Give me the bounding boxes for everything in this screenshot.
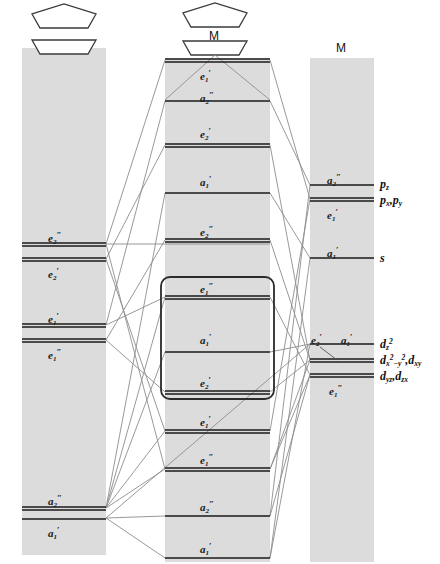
level-label-left-a2dprime: a2″ [48,491,62,509]
level-label-center-e1prime-2: e1′ [200,412,211,430]
level-label-left-e1prime: e1′ [48,309,59,327]
ao-label-dyz-dzx: dyz,dzx [380,369,408,384]
ao-label-pz: pz [380,177,389,192]
ao-label-dz2: dz2 [380,337,393,352]
level-label-left-e2dprime: e2″ [48,228,61,246]
ao-label-px-py: px,py [380,193,402,208]
ao-label-dx2y2-dxy: dx2−y2,dxy [380,353,421,368]
level-label-left-e1dprime: e1″ [48,345,61,363]
level-label-right-a2dprime: a2″ [327,170,341,188]
level-label-left-a1prime: a1′ [48,523,59,541]
level-label-right-a1prime-d: a1′ [341,330,352,348]
level-label-center-a2dprime-2: a2″ [200,497,214,515]
level-label-right-a1prime-s: a1′ [327,243,338,261]
level-label-left-e2prime: e2′ [48,264,59,282]
level-label-center-a2dprime-1: a2″ [200,88,214,106]
level-label-right-e2prime: e2′ [311,330,322,348]
center-metal-title: M [209,29,219,43]
level-label-center-a1prime-3: a1′ [200,539,211,557]
frontier-box-layer [0,0,440,564]
level-label-center-e2dprime: e2″ [200,222,213,240]
level-label-center-e1prime-top: e1′ [200,66,211,84]
level-label-center-e1dprime-1: e1″ [200,279,213,297]
level-label-right-e1dprime: e1″ [329,381,342,399]
level-label-center-e1dprime-2: e1″ [200,450,213,468]
level-label-center-e2prime-1: e2′ [200,124,211,142]
frontier-orbital-box [161,277,274,399]
level-label-right-e1prime: e1′ [327,205,338,223]
level-label-center-a1prime-2: a1′ [200,330,211,348]
right-metal-title: M [336,41,346,55]
mo-correlation-diagram: M M e2″ e2′ e1′ e1″ a2″ a1′ e1′ a2″ e2′ … [0,0,440,564]
level-label-center-a1prime-1: a1′ [200,172,211,190]
level-label-center-e2prime-2: e2′ [200,373,211,391]
ao-label-s: s [380,251,385,266]
